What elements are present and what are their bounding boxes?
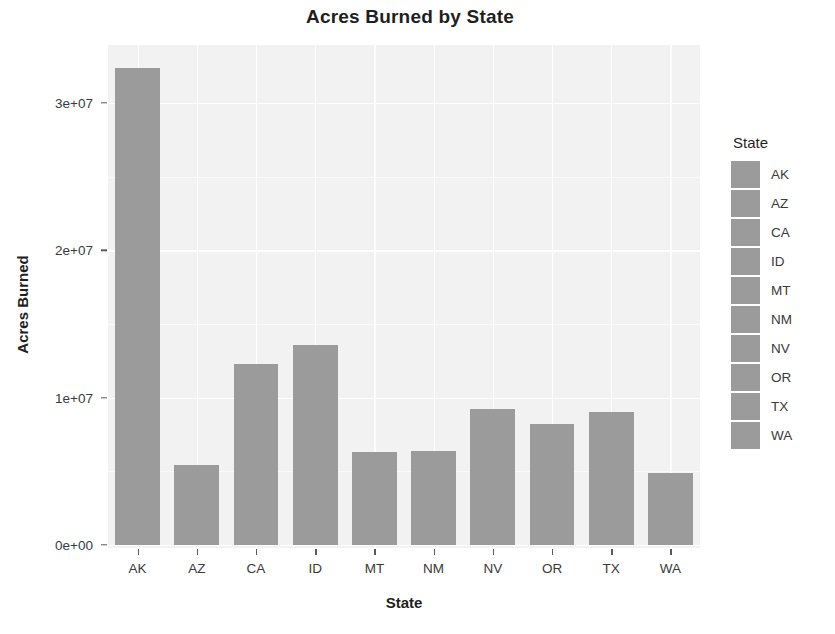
bar-az bbox=[174, 465, 219, 545]
legend-label-ca: CA bbox=[771, 225, 790, 240]
legend-items: AKAZCAIDMTNMNVORTXWA bbox=[731, 160, 792, 450]
legend-swatch-nv bbox=[731, 335, 760, 362]
legend-label-mt: MT bbox=[771, 283, 791, 298]
legend-item-or[interactable]: OR bbox=[731, 363, 792, 392]
bar-id bbox=[293, 345, 338, 545]
y-tick-label: 1e+07 bbox=[13, 390, 93, 405]
bar-chart: Acres Burned by State Acres Burned 0e+00… bbox=[0, 0, 835, 634]
bar-nv bbox=[470, 409, 515, 545]
legend-label-nv: NV bbox=[771, 341, 790, 356]
legend-swatch-wa bbox=[731, 422, 760, 449]
x-tick-mark bbox=[315, 549, 316, 555]
x-tick-mark bbox=[493, 549, 494, 555]
legend-item-ak[interactable]: AK bbox=[731, 160, 792, 189]
legend-swatch-tx bbox=[731, 393, 760, 420]
legend-item-wa[interactable]: WA bbox=[731, 421, 792, 450]
y-tick-mark bbox=[101, 102, 107, 103]
legend-swatch-ca bbox=[731, 219, 760, 246]
bar-wa bbox=[648, 473, 693, 545]
x-tick-mark bbox=[552, 549, 553, 555]
legend-title: State bbox=[731, 134, 792, 151]
x-axis-title: State bbox=[108, 594, 700, 611]
y-tick-mark bbox=[101, 544, 107, 545]
legend-label-nm: NM bbox=[771, 312, 792, 327]
x-tick-mark bbox=[197, 549, 198, 555]
bar-nm bbox=[411, 451, 456, 545]
bar-or bbox=[530, 424, 575, 545]
y-tick-label: 3e+07 bbox=[13, 96, 93, 111]
legend-label-tx: TX bbox=[771, 399, 788, 414]
x-tick-label-wa: WA bbox=[635, 561, 705, 576]
legend-item-az[interactable]: AZ bbox=[731, 189, 792, 218]
y-tick-label: 2e+07 bbox=[13, 243, 93, 258]
x-tick-mark bbox=[374, 549, 375, 555]
y-tick-mark bbox=[101, 250, 107, 251]
legend-swatch-az bbox=[731, 190, 760, 217]
bar-ak bbox=[115, 68, 160, 545]
y-tick-mark bbox=[101, 397, 107, 398]
legend-label-id: ID bbox=[771, 254, 785, 269]
legend-item-id[interactable]: ID bbox=[731, 247, 792, 276]
legend-label-wa: WA bbox=[771, 428, 792, 443]
legend-swatch-mt bbox=[731, 277, 760, 304]
legend-label-or: OR bbox=[771, 370, 791, 385]
plot-panel bbox=[108, 45, 700, 548]
legend: State AKAZCAIDMTNMNVORTXWA bbox=[731, 134, 792, 450]
legend-item-tx[interactable]: TX bbox=[731, 392, 792, 421]
legend-swatch-nm bbox=[731, 306, 760, 333]
legend-swatch-ak bbox=[731, 161, 760, 188]
x-tick-mark bbox=[670, 549, 671, 555]
legend-item-nv[interactable]: NV bbox=[731, 334, 792, 363]
x-tick-mark bbox=[138, 549, 139, 555]
legend-item-mt[interactable]: MT bbox=[731, 276, 792, 305]
bar-tx bbox=[589, 412, 634, 545]
legend-swatch-or bbox=[731, 364, 760, 391]
legend-item-nm[interactable]: NM bbox=[731, 305, 792, 334]
x-tick-mark bbox=[434, 549, 435, 555]
legend-item-ca[interactable]: CA bbox=[731, 218, 792, 247]
bar-mt bbox=[352, 452, 397, 545]
legend-label-ak: AK bbox=[771, 167, 789, 182]
chart-title: Acres Burned by State bbox=[0, 6, 820, 28]
legend-swatch-id bbox=[731, 248, 760, 275]
x-tick-mark bbox=[256, 549, 257, 555]
legend-label-az: AZ bbox=[771, 196, 788, 211]
bars-group bbox=[108, 45, 700, 548]
x-tick-mark bbox=[611, 549, 612, 555]
y-tick-label: 0e+00 bbox=[13, 538, 93, 553]
bar-ca bbox=[234, 364, 279, 545]
